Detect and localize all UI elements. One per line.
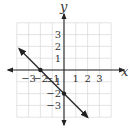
y-tick-label: −3	[46, 100, 61, 111]
x-axis-label: x	[121, 64, 129, 79]
x-tick-label: 1	[73, 73, 79, 84]
y-tick-label: 1	[55, 53, 61, 64]
labels-layer: x y −3−2−1123321−1−2−3	[21, 0, 129, 111]
y-tick-label: 2	[55, 41, 61, 52]
y-tick-label: 3	[55, 29, 61, 40]
y-axis-label: y	[59, 0, 68, 14]
coordinate-plane: x y −3−2−1123321−1−2−3	[0, 0, 130, 126]
y-tick-label: −2	[46, 88, 61, 99]
y-tick-label: −1	[46, 76, 61, 87]
data-point	[62, 91, 66, 95]
x-tick-label: 2	[84, 73, 90, 84]
data-point	[38, 68, 42, 72]
axes	[8, 14, 124, 125]
x-tick-label: 3	[96, 73, 102, 84]
